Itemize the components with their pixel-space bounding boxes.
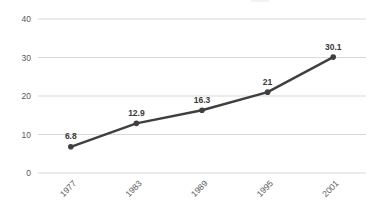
data-point [330, 54, 336, 60]
cropped-title-artifact [251, 0, 269, 2]
x-tick-label: 2001 [320, 178, 341, 199]
line-chart: 010203040197719831989199520016.812.916.3… [0, 0, 379, 214]
data-label: 30.1 [325, 42, 342, 52]
x-tick-label: 1977 [58, 178, 79, 199]
x-tick-label: 1989 [189, 178, 210, 199]
y-tick-label: 40 [22, 14, 32, 24]
y-tick-label: 0 [26, 168, 31, 178]
chart-canvas: 010203040197719831989199520016.812.916.3… [0, 0, 379, 214]
y-tick-label: 10 [22, 130, 32, 140]
data-point [265, 89, 271, 95]
data-point [68, 144, 74, 150]
data-point [134, 121, 140, 127]
data-label: 12.9 [128, 108, 145, 118]
y-tick-label: 20 [22, 91, 32, 101]
y-tick-label: 30 [22, 53, 32, 63]
data-label: 6.8 [65, 131, 77, 141]
x-tick-label: 1995 [255, 178, 276, 199]
x-tick-label: 1983 [123, 178, 144, 199]
data-label: 16.3 [194, 95, 211, 105]
data-label: 21 [263, 77, 273, 87]
data-point [199, 107, 205, 113]
